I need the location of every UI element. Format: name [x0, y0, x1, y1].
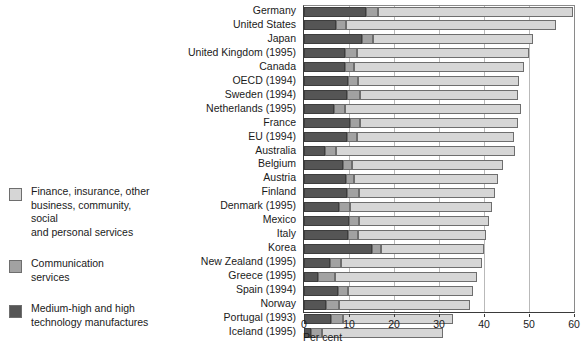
bar-segment [357, 132, 514, 142]
bar-segment [304, 146, 325, 156]
bar-segment [345, 62, 355, 72]
category-label: New Zealand (1995) [140, 255, 300, 269]
bar-segment [318, 272, 335, 282]
bar-segment [339, 300, 471, 310]
bar-segment [354, 174, 498, 184]
bar-segment [338, 286, 348, 296]
bar-segment [304, 160, 343, 170]
bar-segment [381, 244, 484, 254]
category-label: Spain (1994) [140, 283, 300, 297]
category-label: Netherlands (1995) [140, 102, 300, 116]
x-tick-mark [484, 314, 485, 317]
bar-segment [335, 272, 477, 282]
bar-segment [304, 48, 345, 58]
category-label: Belgium [140, 157, 300, 171]
category-label: United Kingdom (1995) [140, 46, 300, 60]
legend-entry: Communication services [0, 257, 160, 284]
bar-segment [343, 160, 352, 170]
bar-segment [304, 62, 345, 72]
bar-segment [360, 118, 518, 128]
bar-segment [345, 104, 521, 114]
x-tick-label: 20 [379, 318, 409, 330]
bar-segment [304, 34, 362, 44]
category-label: Australia [140, 144, 300, 158]
x-tick-mark [439, 314, 440, 317]
bar-segment [358, 230, 487, 240]
category-label: Canada [140, 60, 300, 74]
bar-segment [304, 90, 347, 100]
x-axis-title: Per cent [303, 331, 342, 343]
bar-segment [304, 174, 346, 184]
category-label: Japan [140, 32, 300, 46]
x-tick-mark [304, 314, 305, 317]
bar-segment [304, 20, 336, 30]
category-label: Portugal (1993) [140, 311, 300, 325]
bar-segment [345, 48, 356, 58]
category-label: Italy [140, 227, 300, 241]
bar-segment [362, 34, 374, 44]
x-tick-label: 30 [424, 318, 454, 330]
bar-segment [360, 90, 518, 100]
category-label: Greece (1995) [140, 269, 300, 283]
plot-region [303, 5, 575, 313]
x-tick-label: 40 [469, 318, 499, 330]
legend-entry: Medium-high and high technology manufact… [0, 302, 160, 329]
x-tick-mark [529, 314, 530, 317]
category-axis-labels: GermanyUnited StatesJapanUnited Kingdom … [140, 0, 300, 339]
gridline [529, 5, 530, 313]
bar-segment [372, 244, 381, 254]
category-label: Mexico [140, 213, 300, 227]
legend-entry: Finance, insurance, other business, comm… [0, 185, 160, 239]
x-tick-label: 10 [334, 318, 364, 330]
bar-segment [350, 202, 491, 212]
x-axis: 0102030405060 [303, 314, 575, 344]
x-tick-label: 60 [559, 318, 586, 330]
legend-label: Communication services [31, 257, 104, 284]
category-label: Denmark (1995) [140, 199, 300, 213]
legend-swatch-communication [9, 260, 22, 273]
x-tick-mark [349, 314, 350, 317]
bar-segment [378, 7, 573, 17]
bar-segment [325, 146, 336, 156]
bar-segment [347, 188, 359, 198]
category-label: Korea [140, 241, 300, 255]
bar-segment [304, 286, 338, 296]
bar-segment [304, 76, 348, 86]
bar-segment [350, 118, 360, 128]
category-label: EU (1994) [140, 130, 300, 144]
bar-segment [352, 160, 503, 170]
bar-segment [348, 230, 357, 240]
bar-segment [304, 244, 372, 254]
bar-segment [359, 188, 494, 198]
category-label: OECD (1994) [140, 74, 300, 88]
legend-label: Medium-high and high technology manufact… [31, 302, 148, 329]
bar-segment [358, 76, 520, 86]
category-label: United States [140, 18, 300, 32]
legend-swatch-services [9, 188, 22, 201]
legend-swatch-technology [9, 305, 22, 318]
category-label: Sweden (1994) [140, 88, 300, 102]
bar-segment [334, 104, 345, 114]
x-tick-mark [394, 314, 395, 317]
x-tick-label: 0 [289, 318, 319, 330]
bar-segment [326, 300, 339, 310]
bar-segment [347, 132, 357, 142]
bar-segment [349, 216, 359, 226]
category-label: France [140, 116, 300, 130]
legend-label: Finance, insurance, other business, comm… [31, 185, 160, 239]
bar-segment [339, 202, 350, 212]
bar-segment [348, 286, 473, 296]
bar-segment [304, 272, 318, 282]
bar-segment [304, 216, 349, 226]
bar-segment [354, 62, 523, 72]
bar-segment [330, 258, 342, 268]
bar-segment [304, 7, 366, 17]
bar-segment [373, 34, 533, 44]
bar-segment [304, 132, 347, 142]
bar-segment [304, 188, 347, 198]
bar-segment [347, 90, 360, 100]
bar-segment [366, 7, 378, 17]
bar-segment [357, 48, 529, 58]
category-label: Germany [140, 4, 300, 18]
bar-segment [346, 20, 556, 30]
